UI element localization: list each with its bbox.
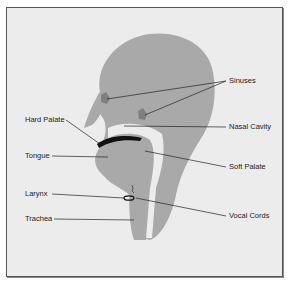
leader-hard-palate (66, 120, 100, 144)
label-nasal-cavity: Nasal Cavity (229, 123, 271, 131)
label-trachea: Trachea (25, 215, 52, 223)
label-vocal-cords: Vocal Cords (229, 212, 269, 220)
label-tongue: Tongue (25, 152, 50, 160)
leader-trachea (54, 219, 134, 220)
label-hard-palate: Hard Palate (25, 116, 65, 124)
leader-larynx (52, 194, 124, 198)
label-soft-palate: Soft Palate (229, 163, 266, 171)
head-cross-section-illustration (0, 0, 289, 289)
label-larynx: Larynx (25, 190, 48, 198)
trachea-shape (129, 185, 146, 240)
label-sinuses: Sinuses (229, 77, 256, 85)
